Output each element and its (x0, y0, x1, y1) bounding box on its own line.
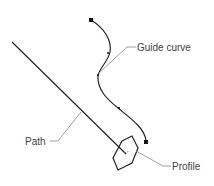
path-label: Path (25, 136, 46, 147)
guide-curve (91, 20, 146, 141)
profile-center-mark (124, 151, 130, 153)
profile-leader (136, 151, 171, 166)
sweep-diagram (0, 0, 214, 186)
guide-curve-end-point-icon (144, 140, 148, 144)
profile-label: Profile (172, 161, 200, 172)
guide-curve-start-point-icon (89, 18, 93, 22)
guide-curve-leader (99, 47, 136, 73)
path-leader (50, 112, 81, 141)
guide-curve-label: Guide curve (137, 42, 191, 53)
guide-curve-midpoint-icon (107, 52, 109, 54)
guide-curve-midpoint-icon (97, 74, 99, 76)
guide-curve-midpoint-icon (118, 107, 120, 109)
